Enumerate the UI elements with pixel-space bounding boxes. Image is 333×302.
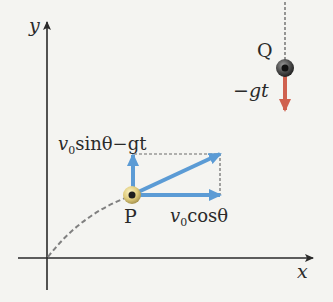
horizontal-component-label: v0cosθ xyxy=(170,205,228,229)
projectile-diagram xyxy=(0,0,333,302)
y-axis-label: y xyxy=(29,14,40,36)
trajectory-dashed xyxy=(48,197,128,257)
x-axis-label: x xyxy=(297,260,308,282)
particle-p-label: P xyxy=(124,205,137,227)
v-symbol: v xyxy=(170,205,180,226)
component-expression: cosθ xyxy=(187,205,228,226)
particle-q-label: Q xyxy=(257,39,273,61)
resultant-velocity-arrow xyxy=(136,154,220,193)
particle-p-core xyxy=(129,192,136,199)
vertical-component-label: v0sinθ−gt xyxy=(58,133,146,157)
particle-q-core xyxy=(282,65,289,72)
component-expression: sinθ−gt xyxy=(75,133,146,154)
gravity-velocity-label: −gt xyxy=(233,79,269,101)
v-symbol: v xyxy=(58,133,68,154)
